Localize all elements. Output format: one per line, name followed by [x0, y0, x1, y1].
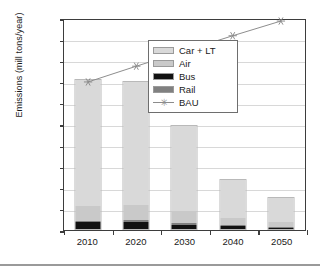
- legend-swatch-icon: [153, 60, 174, 67]
- bar-slot: [257, 20, 305, 230]
- x-tick-mark: [161, 230, 162, 235]
- legend-label: Car + LT: [179, 45, 216, 56]
- bar-segment-bus: [172, 225, 197, 229]
- bar-segment-bus: [268, 228, 293, 229]
- bar-segment-air: [172, 211, 197, 223]
- legend-label: BAU: [179, 97, 199, 108]
- x-tick-mark: [64, 230, 65, 235]
- bar-segment-car-lt: [172, 126, 197, 211]
- legend-item[interactable]: Bus: [153, 70, 233, 83]
- x-tick-mark: [210, 230, 211, 235]
- bar-slot: [64, 20, 112, 230]
- legend-swatch-icon: [153, 86, 174, 93]
- y-axis-title: Emissions (mill tons/year): [14, 0, 24, 150]
- x-tick-mark: [113, 230, 114, 235]
- legend-item[interactable]: ✳BAU: [153, 96, 233, 109]
- legend-line-marker-icon: ✳: [153, 98, 174, 107]
- x-tick-label: 2050: [252, 236, 312, 247]
- stacked-bar[interactable]: [267, 197, 294, 230]
- legend-swatch-icon: [153, 73, 174, 80]
- chart-legend: Car + LTAirBusRail✳BAU: [148, 40, 238, 113]
- legend-item[interactable]: Rail: [153, 83, 233, 96]
- chart-figure: Emissions (mill tons/year) 2,0001,8001,6…: [0, 0, 320, 266]
- stacked-bar[interactable]: [75, 79, 102, 230]
- bar-segment-car-lt: [268, 198, 293, 222]
- bar-segment-bus: [76, 222, 101, 229]
- legend-label: Air: [179, 58, 191, 69]
- bar-segment-air: [220, 218, 245, 225]
- x-tick-mark: [258, 230, 259, 235]
- legend-item[interactable]: Car + LT: [153, 44, 233, 57]
- stacked-bar[interactable]: [123, 81, 150, 230]
- legend-swatch-icon: [153, 47, 174, 54]
- legend-label: Rail: [179, 84, 195, 95]
- asterisk-icon: ✳: [160, 98, 168, 108]
- legend-label: Bus: [179, 71, 195, 82]
- bar-segment-air: [124, 205, 149, 220]
- stacked-bar[interactable]: [171, 125, 198, 230]
- bar-segment-car-lt: [76, 80, 101, 206]
- bar-segment-car-lt: [220, 180, 245, 218]
- stacked-bar[interactable]: [219, 179, 246, 230]
- x-tick-mark: [307, 230, 308, 235]
- legend-item[interactable]: Air: [153, 57, 233, 70]
- bar-segment-bus: [220, 226, 245, 229]
- bar-segment-air: [76, 206, 101, 221]
- bar-segment-car-lt: [124, 82, 149, 204]
- bar-segment-bus: [124, 222, 149, 229]
